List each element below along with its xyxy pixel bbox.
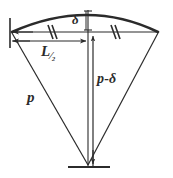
label-radius-p: p — [27, 90, 35, 105]
label-L-letter: L — [41, 43, 50, 59]
label-radius-minus-sagitta: p-δ — [97, 72, 116, 86]
label-sagitta-delta: δ — [72, 13, 79, 26]
diagram-canvas — [0, 0, 173, 178]
radius-line-right — [88, 33, 158, 165]
sagitta-geometry-figure: p p-δ δ L⁄₂ — [0, 0, 173, 178]
label-delta-part: δ — [109, 71, 116, 86]
label-half-fraction: ⁄₂ — [50, 49, 55, 61]
label-half-chord: L⁄₂ — [41, 44, 55, 61]
